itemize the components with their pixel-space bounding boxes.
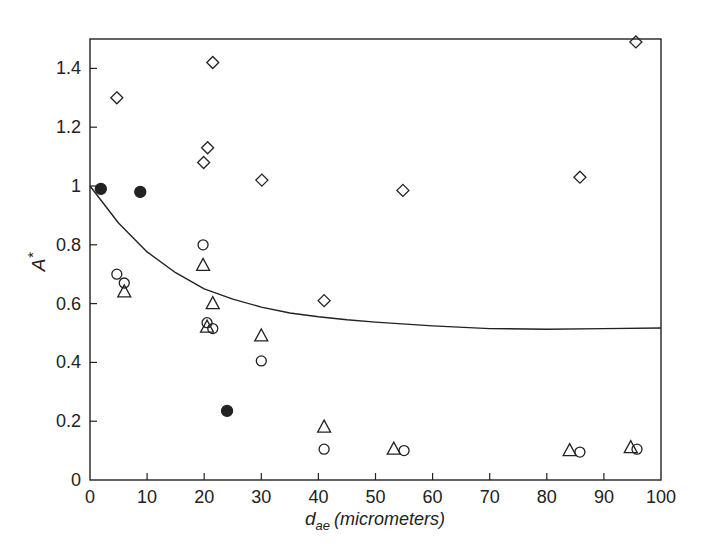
y-tick-label: 1.2	[56, 117, 81, 137]
y-tick-label: 0.2	[56, 411, 81, 431]
filled-circle-marker	[222, 405, 233, 416]
diamond-marker	[574, 171, 586, 183]
y-tick-label: 0	[71, 470, 81, 490]
triangle-marker	[563, 444, 576, 456]
x-tick-label: 80	[537, 487, 557, 507]
diamond-marker	[198, 156, 210, 168]
triangle-marker	[387, 442, 400, 454]
model-curve	[90, 186, 661, 329]
open-circle-marker	[319, 444, 329, 454]
open-circle-marker	[256, 356, 266, 366]
diamond-marker	[630, 36, 642, 48]
x-tick-label: 60	[423, 487, 443, 507]
x-tick-label: 70	[480, 487, 500, 507]
x-tick-label: 20	[194, 487, 214, 507]
open-circle-marker	[198, 240, 208, 250]
diamond-marker	[111, 92, 123, 104]
x-tick-label: 100	[646, 487, 676, 507]
x-tick-label: 0	[85, 487, 95, 507]
x-axis-ticks: 0102030405060708090100	[85, 473, 676, 507]
open-circle-marker	[112, 269, 122, 279]
y-axis-ticks: 00.20.40.60.811.21.4	[56, 58, 97, 490]
diamond-marker	[207, 57, 219, 69]
filled-circle-marker	[95, 183, 106, 194]
triangle-marker	[624, 441, 637, 453]
data-markers	[95, 36, 642, 457]
filled-circle-marker	[135, 186, 146, 197]
y-axis-label: A*	[24, 252, 49, 273]
diamond-marker	[318, 295, 330, 307]
diamond-marker	[202, 142, 214, 154]
triangle-marker	[255, 329, 268, 341]
triangle-marker	[206, 297, 219, 309]
x-axis-label: dae(micrometers)	[305, 508, 445, 533]
plot-border	[90, 39, 661, 480]
open-circle-marker	[119, 278, 129, 288]
x-tick-label: 50	[365, 487, 385, 507]
y-tick-label: 0.8	[56, 235, 81, 255]
x-tick-label: 10	[137, 487, 157, 507]
triangle-marker	[118, 285, 131, 297]
y-tick-label: 0.4	[56, 352, 81, 372]
y-tick-label: 1.4	[56, 58, 81, 78]
triangle-marker	[318, 420, 331, 432]
y-tick-label: 1	[71, 176, 81, 196]
x-tick-label: 90	[594, 487, 614, 507]
plot-frame	[90, 39, 661, 480]
triangle-marker	[197, 258, 210, 270]
y-tick-label: 0.6	[56, 294, 81, 314]
scatter-chart: 0102030405060708090100 00.20.40.60.811.2…	[0, 0, 701, 559]
diamond-marker	[397, 184, 409, 196]
diamond-marker	[256, 174, 268, 186]
x-tick-label: 30	[251, 487, 271, 507]
x-tick-label: 40	[308, 487, 328, 507]
